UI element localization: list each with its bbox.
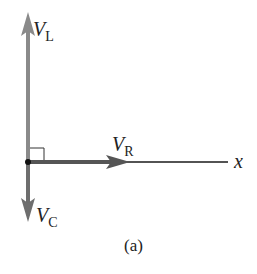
right-angle-marker: [30, 148, 44, 160]
vc-label: VC: [36, 204, 58, 230]
vc-phasor-arrow: [21, 162, 35, 222]
vr-label: VR: [112, 133, 134, 159]
figure-caption: (a): [124, 236, 143, 255]
vl-label: VL: [33, 18, 54, 44]
phasor-diagram: VL VR VC x (a): [0, 0, 257, 274]
origin-dot: [25, 159, 31, 165]
vr-phasor-arrow: [28, 155, 130, 169]
x-axis-label: x: [233, 150, 243, 172]
